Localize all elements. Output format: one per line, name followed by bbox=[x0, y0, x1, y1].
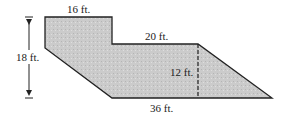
label-trapezoid-height: 12 ft. bbox=[170, 67, 193, 78]
label-height: 18 ft. bbox=[16, 52, 39, 63]
label-middle-width: 20 ft. bbox=[145, 31, 168, 42]
label-bottom-width: 36 ft. bbox=[150, 103, 173, 114]
label-top-width: 16 ft. bbox=[67, 4, 90, 15]
composite-shape-diagram bbox=[0, 0, 287, 118]
